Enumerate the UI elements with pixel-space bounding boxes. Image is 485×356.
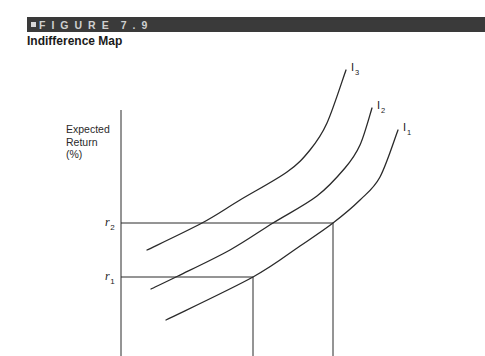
curve-I1 (166, 130, 398, 320)
indifference-curves (147, 70, 398, 320)
label-r2: r2 (105, 215, 115, 232)
reference-lines (121, 223, 333, 356)
label-I1: I1 (403, 121, 411, 137)
chart-labels: r2r1I1I2I3 (105, 61, 411, 286)
curve-I2 (151, 108, 372, 289)
label-I3: I3 (351, 61, 359, 77)
indifference-chart: r2r1I1I2I3 (0, 0, 485, 356)
label-r1: r1 (105, 269, 115, 286)
label-I2: I2 (377, 99, 385, 115)
